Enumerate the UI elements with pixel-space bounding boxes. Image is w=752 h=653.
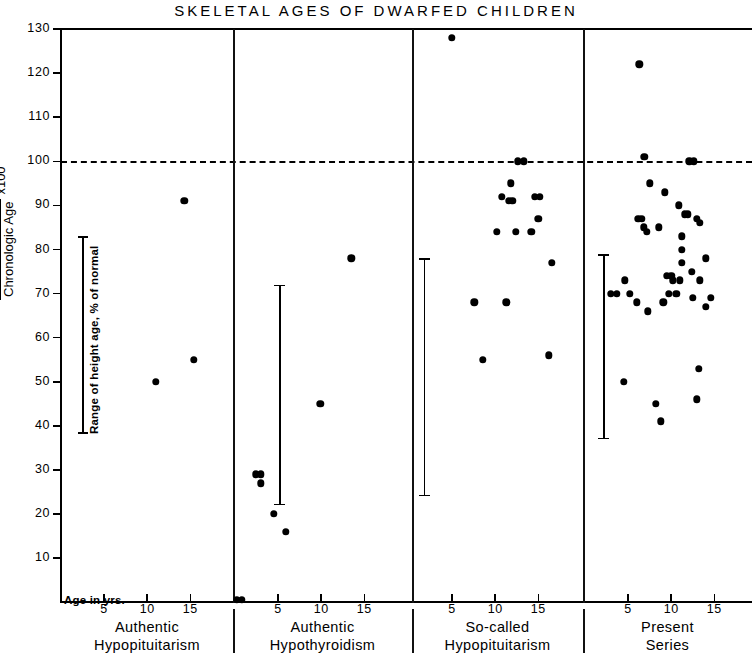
y-tick-90 [53, 205, 61, 207]
x-tick-p4-5 [627, 594, 629, 602]
data-point [633, 299, 640, 306]
panel-caption-line2-1: Hypopituitarism [57, 636, 237, 653]
x-tick-p2-10 [320, 594, 322, 602]
data-point [702, 255, 709, 262]
chart-title: SKELETAL AGES OF DWARFED CHILDREN [0, 2, 752, 19]
panel-caption-4: PresentSeries [578, 618, 752, 653]
data-point [257, 480, 264, 487]
y-tick-130 [53, 28, 61, 30]
y-tick-label-100: 100 [0, 153, 50, 167]
x-tick-label-p2-10: 10 [306, 602, 336, 616]
y-tick-70 [53, 293, 61, 295]
x-tick-p3-15 [538, 594, 540, 602]
panel-caption-2: AuthenticHypothyroidism [233, 618, 413, 653]
x-tick-label-p4-10: 10 [656, 602, 686, 616]
range-bar-panel-3 [424, 258, 426, 496]
x-tick-label-p1-15: 15 [175, 602, 205, 616]
panel-caption-line1-1: Authentic [57, 618, 237, 636]
range-bar-panel-4 [603, 254, 605, 439]
data-point [257, 471, 264, 478]
y-tick-60 [53, 337, 61, 339]
data-point [702, 303, 709, 310]
x-tick-p4-10 [670, 594, 672, 602]
data-point [512, 228, 519, 235]
data-point [317, 400, 324, 407]
data-point [448, 34, 455, 41]
range-legend-bar [82, 236, 84, 434]
range-bar-cap-bottom [419, 495, 430, 497]
data-point [181, 197, 188, 204]
data-point [270, 510, 277, 517]
data-point [471, 299, 478, 306]
data-point [545, 352, 552, 359]
chart-root: SKELETAL AGES OF DWARFED CHILDREN 130120… [0, 0, 752, 653]
x-tick-p1-15 [190, 594, 192, 602]
data-point [282, 528, 289, 535]
y-tick-30 [53, 469, 61, 471]
panel-separator-2 [412, 29, 414, 603]
y-tick-label-50: 50 [0, 374, 50, 388]
x-tick-p2-5 [277, 594, 279, 602]
data-point [613, 290, 620, 297]
y-tick-label-30: 30 [0, 462, 50, 476]
axis-x-line [61, 601, 752, 603]
y-tick-label-110: 110 [0, 109, 50, 123]
panel-caption-line1-3: So-called [408, 618, 588, 636]
data-point [646, 180, 653, 187]
y-tick-label-10: 10 [0, 550, 50, 564]
y-axis-label: Skeletal Age Chronologic Age x100 [0, 166, 17, 300]
range-legend-cap-top [78, 236, 88, 238]
data-point [652, 400, 659, 407]
axis-y-line [60, 29, 62, 603]
y-tick-110 [53, 116, 61, 118]
data-point [507, 180, 514, 187]
range-bar-cap-top [274, 285, 285, 287]
data-point [503, 299, 510, 306]
y-tick-10 [53, 557, 61, 559]
data-point [152, 378, 159, 385]
data-point [657, 418, 664, 425]
data-point [548, 259, 555, 266]
panel-caption-line2-4: Series [578, 636, 752, 653]
data-point [520, 158, 527, 165]
x-tick-label-p2-15: 15 [349, 602, 379, 616]
x-tick-p2-15 [364, 594, 366, 602]
y-tick-label-60: 60 [0, 330, 50, 344]
panel-caption-line2-3: Hypopituitarism [408, 636, 588, 653]
data-point [678, 246, 685, 253]
data-point [690, 158, 697, 165]
y-tick-label-120: 120 [0, 65, 50, 79]
data-point [678, 259, 685, 266]
range-legend-text: Range of height age, % of normal [88, 246, 100, 435]
data-point [678, 233, 685, 240]
range-bar-cap-top [419, 258, 430, 260]
y-tick-40 [53, 425, 61, 427]
data-point [643, 228, 650, 235]
data-point [641, 153, 648, 160]
y-axis-denominator: Chronologic Age [0, 199, 17, 300]
data-point [620, 378, 627, 385]
data-point [655, 224, 662, 231]
panel-caption-1: AuthenticHypopituitarism [57, 618, 237, 653]
data-point [535, 215, 542, 222]
range-bar-cap-top [598, 254, 609, 256]
data-point [707, 294, 714, 301]
data-point [238, 596, 245, 603]
x-tick-label-p3-15: 15 [523, 602, 553, 616]
x-tick-label-p4-15: 15 [699, 602, 729, 616]
x-tick-label-p3-10: 10 [480, 602, 510, 616]
reference-line-100-percent [61, 161, 752, 163]
range-bar-cap-bottom [274, 504, 285, 506]
x-tick-p1-10 [146, 594, 148, 602]
data-point [695, 365, 702, 372]
data-point [348, 255, 355, 262]
y-tick-20 [53, 513, 61, 515]
y-axis-fraction: Skeletal Age Chronologic Age [0, 199, 17, 300]
data-point [493, 228, 500, 235]
y-tick-120 [53, 72, 61, 74]
data-point [673, 290, 680, 297]
data-point [676, 277, 683, 284]
y-tick-50 [53, 381, 61, 383]
x-tick-label-p3-5: 5 [437, 602, 467, 616]
data-point [675, 202, 682, 209]
